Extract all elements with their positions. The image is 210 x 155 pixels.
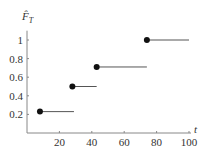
step-point [94, 64, 100, 70]
y-tick-label: 0.8 [9, 53, 23, 65]
x-tick-label: 60 [119, 136, 131, 148]
axes: 204060801000.20.40.60.81 [9, 31, 198, 148]
x-axis-label: t [194, 123, 198, 135]
y-tick-label: 0.4 [9, 90, 23, 102]
y-tick-label: 0.6 [9, 71, 23, 83]
y-axis-label: F̂T [21, 10, 34, 25]
x-tick-label: 80 [151, 136, 163, 148]
step-series [37, 37, 189, 115]
step-point [144, 37, 150, 43]
x-tick-label: 100 [181, 136, 198, 148]
step-point [69, 84, 75, 90]
y-tick-label: 1 [18, 34, 24, 46]
step-point [37, 109, 43, 115]
ecdf-chart: 204060801000.20.40.60.81 F̂T t [0, 0, 210, 155]
x-tick-label: 20 [54, 136, 66, 148]
y-tick-label: 0.2 [9, 108, 23, 120]
x-tick-label: 40 [86, 136, 98, 148]
